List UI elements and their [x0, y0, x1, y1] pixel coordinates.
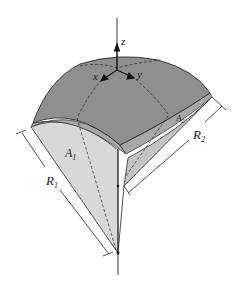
z-arrowhead-icon: [115, 44, 120, 51]
z-axis-label: z: [120, 35, 126, 47]
left-face-a1: [31, 122, 118, 253]
shell-element-diagram: z x y A1 A2 R1 R2: [0, 0, 238, 289]
inner-edge: [118, 186, 124, 253]
x-axis-label: x: [92, 70, 98, 82]
center-point-2: [117, 185, 120, 188]
center-point-1: [117, 252, 120, 255]
r1-label: R1: [45, 173, 58, 190]
r2-label: R2: [192, 127, 205, 144]
y-axis-label: y: [136, 68, 142, 80]
